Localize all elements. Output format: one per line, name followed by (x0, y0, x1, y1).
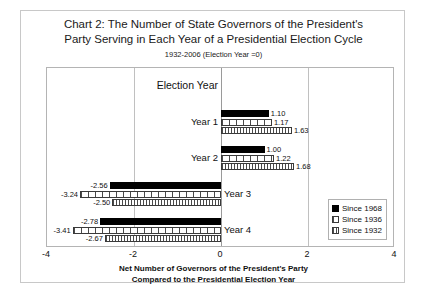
bar-value-label: -2.50 (93, 199, 110, 207)
category-row: Election Year (47, 68, 393, 104)
bar-2-4 (80, 191, 221, 198)
category-label-3: Year 2 (191, 152, 218, 163)
legend-label: Since 1968 (342, 204, 382, 213)
chart-title-line-1: Chart 2: The Number of State Governors o… (21, 17, 406, 32)
bar-value-label: -2.78 (81, 218, 98, 226)
category-label-2: Year 1 (191, 116, 218, 127)
x-tick-label: 2 (304, 249, 309, 260)
x-tick-label: 0 (217, 249, 222, 260)
bar-value-label: 1.00 (267, 146, 282, 154)
chart-title-block: Chart 2: The Number of State Governors o… (21, 17, 406, 60)
bar-3-5 (105, 235, 221, 242)
legend-swatch-icon (332, 227, 339, 234)
legend-item[interactable]: Since 1936 (332, 214, 382, 225)
x-axis-ticks: -4-2024 (46, 249, 394, 261)
chart-legend: Since 1968Since 1936Since 1932 (328, 199, 387, 240)
bar-value-label: 1.17 (274, 119, 289, 127)
bar-2-2 (221, 119, 272, 126)
bar-3-2 (221, 127, 292, 134)
x-tick-label: -4 (42, 249, 50, 260)
plot-area: Election Year1.101.171.63Year 11.001.221… (46, 67, 394, 247)
bar-value-label: -3.24 (61, 191, 78, 199)
legend-label: Since 1932 (342, 226, 382, 235)
legend-swatch-icon (332, 216, 339, 223)
chart-container: Chart 2: The Number of State Governors o… (20, 10, 405, 283)
x-tick-label: -2 (129, 249, 137, 260)
category-label-5: Year 4 (224, 224, 251, 235)
category-row: 1.001.221.68Year 2 (47, 140, 393, 176)
bar-1-5 (100, 218, 221, 225)
legend-item[interactable]: Since 1932 (332, 225, 382, 236)
bar-3-4 (112, 199, 221, 206)
bar-value-label: -2.67 (86, 235, 103, 243)
x-tick-label: 4 (391, 249, 396, 260)
bar-2-3 (221, 155, 274, 162)
bar-value-label: 1.63 (294, 127, 309, 135)
x-axis-title: Net Number of Governors of the President… (21, 263, 406, 285)
x-axis-title-line-1: Net Number of Governors of the President… (21, 263, 406, 274)
bar-value-label: 1.22 (276, 155, 291, 163)
legend-label: Since 1936 (342, 215, 382, 224)
x-axis-title-line-2: Compared to the Presidential Election Ye… (21, 274, 406, 285)
legend-item[interactable]: Since 1968 (332, 203, 382, 214)
bar-1-4 (110, 182, 221, 189)
bar-value-label: -3.41 (54, 227, 71, 235)
bar-value-label: 1.10 (271, 110, 286, 118)
category-label-4: Year 3 (224, 188, 251, 199)
category-row: 1.101.171.63Year 1 (47, 104, 393, 140)
bar-1-3 (221, 146, 265, 153)
chart-subtitle: 1932-2006 (Election Year =0) (21, 49, 406, 60)
bar-2-5 (73, 227, 221, 234)
bar-3-3 (221, 163, 294, 170)
bar-value-label: 1.68 (296, 163, 311, 171)
chart-title-line-2: Party Serving in Each Year of a Presiden… (21, 32, 406, 47)
bar-1-2 (221, 110, 269, 117)
category-label-1: Election Year (157, 80, 218, 91)
legend-swatch-icon (332, 205, 339, 212)
bar-value-label: -2.56 (91, 182, 108, 190)
